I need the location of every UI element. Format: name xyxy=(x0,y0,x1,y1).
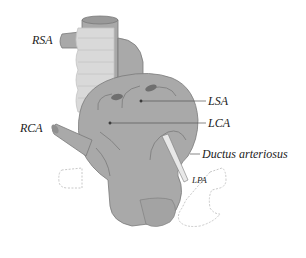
label-lpa: LPA xyxy=(192,176,207,185)
label-rsa: RSA xyxy=(32,34,53,46)
label-lca: LCA xyxy=(208,117,230,129)
aortic-arch-diagram: RSA RCA LSA LCA Ductus arteriosus LPA xyxy=(0,0,306,258)
label-lsa: LSA xyxy=(208,95,228,107)
vascular-ring-body xyxy=(78,73,198,226)
label-ductus-arteriosus: Ductus arteriosus xyxy=(202,148,288,160)
label-rca: RCA xyxy=(20,122,43,134)
